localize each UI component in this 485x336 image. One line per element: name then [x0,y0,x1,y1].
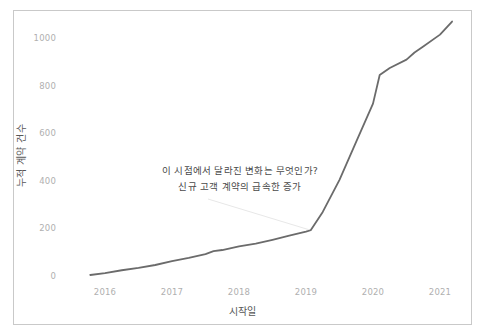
x-axis-title: 시작일 [0,303,485,318]
y-tick-label-1000: 1000 [22,33,56,43]
y-tick-label-200: 200 [22,223,56,233]
x-tick-label-2021: 2021 [419,287,461,297]
chart-screenshot: 0 200 400 600 800 1000 2016 2017 2018 20… [0,0,485,336]
x-tick-label-2018: 2018 [218,287,260,297]
y-tick-label-800: 800 [22,81,56,91]
y-axis-title: 누적 계약 건수 [13,108,28,204]
x-tick-label-2017: 2017 [151,287,193,297]
y-tick-label-0: 0 [22,271,56,281]
annotation-line-1: 이 시점에서 달라진 변화는 무엇인가? [150,163,330,179]
x-tick-label-2019: 2019 [285,287,327,297]
annotation-line-2: 신규 고객 계약의 급속한 증가 [150,179,330,195]
x-tick-label-2020: 2020 [352,287,394,297]
inflection-annotation: 이 시점에서 달라진 변화는 무엇인가? 신규 고객 계약의 급속한 증가 [150,163,330,195]
x-tick-label-2016: 2016 [84,287,126,297]
